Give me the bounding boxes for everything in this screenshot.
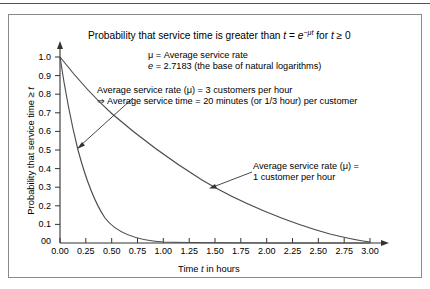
- legend-mu-definition: μ = Average service rate: [148, 50, 248, 62]
- figure-container: Probability that service time is greater…: [0, 0, 430, 289]
- annotation-mu3-line2: ⇒ Average service time = 20 minutes (or …: [97, 96, 357, 108]
- x-axis-label-lead: Time: [178, 263, 201, 274]
- y-axis-label-lead: Probability that service time ≥: [25, 90, 36, 215]
- chart-title-tail: ≥ 0: [334, 30, 351, 41]
- x-axis-label: Time t in hours: [178, 263, 240, 275]
- legend-e-definition: e = 2.7183 (the base of natural logarith…: [148, 61, 321, 73]
- chart-title-equals: =: [286, 30, 298, 41]
- chart-title: Probability that service time is greater…: [88, 29, 351, 43]
- annotation-mu1-line1: Average service rate (μ) =: [253, 161, 359, 173]
- x-axis-label-tail: in hours: [204, 263, 240, 274]
- annotation-mu1-line2: 1 customer per hour: [253, 172, 335, 184]
- x-tick-label: 3.00: [355, 246, 385, 257]
- chart-title-exponent: −μt: [304, 29, 314, 36]
- y-axis-label: Probability that service time ≥ t: [25, 56, 37, 246]
- leader-line-mu-1: [209, 172, 252, 189]
- y-axis-ticks: [55, 57, 60, 224]
- y-axis-label-var: t: [25, 87, 36, 90]
- legend-e-text: = 2.7183 (the base of natural logarithms…: [153, 61, 321, 71]
- chart-title-mid: for: [313, 30, 331, 41]
- chart-title-lead: Probability that service time is greater…: [88, 30, 283, 41]
- annotation-mu3-line1: Average service rate (μ) = 3 customers p…: [97, 85, 292, 97]
